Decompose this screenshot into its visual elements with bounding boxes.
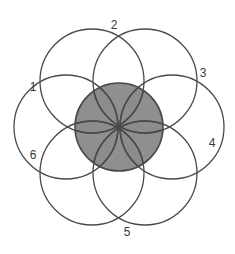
circle-label-2: 2 [111, 18, 118, 32]
venn-diagram-canvas: 123456 [0, 0, 235, 254]
circle-label-4: 4 [209, 136, 216, 150]
circle-label-1: 1 [30, 80, 37, 94]
circle-label-6: 6 [30, 148, 37, 162]
venn-diagram-figure: 123456 [0, 0, 235, 254]
circle-label-3: 3 [200, 66, 207, 80]
circle-label-5: 5 [124, 225, 131, 239]
